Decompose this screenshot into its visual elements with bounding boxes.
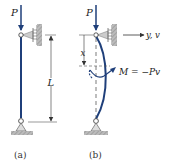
top-support [22, 24, 42, 46]
top-pin-b [94, 33, 98, 37]
axis-label-yv: y, v [145, 30, 160, 40]
bottom-support-a [11, 119, 33, 135]
moment-label: M = −Pv [118, 67, 160, 77]
load-arrow-p-b: P [85, 5, 96, 30]
figure-a: P L (a) [10, 5, 57, 160]
dimension-label-l: L [47, 77, 55, 88]
figure-b: P y, v x [79, 5, 160, 160]
column-buckling-diagram: P L (a) [0, 0, 170, 168]
caption-a: (a) [14, 150, 26, 160]
y-axis-arrow: y, v [123, 30, 160, 40]
load-label-p: P [10, 7, 18, 18]
bottom-support-b [84, 119, 108, 135]
load-arrow-p: P [10, 5, 21, 30]
dimension-l: L [28, 35, 57, 122]
dimension-label-x: x [81, 48, 86, 58]
moment-arrow: M = −Pv [89, 67, 160, 78]
top-pin-a [19, 33, 23, 37]
caption-b: (b) [89, 150, 102, 160]
load-label-p-b: P [85, 7, 93, 18]
